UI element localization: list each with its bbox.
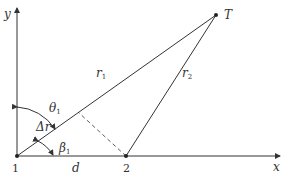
x-axis-label: x xyxy=(273,160,280,174)
bearing-geometry-diagram: y x 1 2 T d r1 r2 θ1 β1 Δr xyxy=(0,0,283,174)
point-2-label: 2 xyxy=(123,162,130,174)
r1-line xyxy=(17,15,216,156)
point-1 xyxy=(15,154,19,158)
y-axis-label: y xyxy=(3,7,11,21)
delta-r-label: Δr xyxy=(35,120,52,134)
diagram-svg: y x 1 2 T d r1 r2 θ1 β1 Δr xyxy=(0,0,283,174)
point-target xyxy=(214,13,218,17)
beta1-label: β1 xyxy=(58,141,70,156)
point-2 xyxy=(124,154,128,158)
point-1-label: 1 xyxy=(12,162,19,174)
r2-label: r2 xyxy=(182,66,192,81)
r1-label: r1 xyxy=(96,66,106,81)
delta-r-perpendicular xyxy=(78,112,126,156)
beta1-arc xyxy=(38,141,53,155)
r2-line xyxy=(126,15,216,156)
target-label: T xyxy=(224,8,233,22)
theta1-label: θ1 xyxy=(49,101,61,116)
baseline-d-label: d xyxy=(72,161,80,174)
